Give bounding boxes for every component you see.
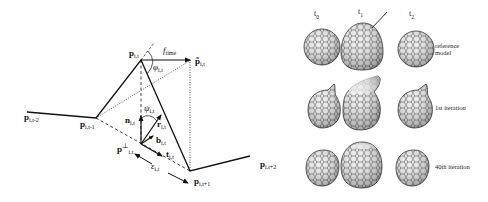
label-f-time: ftime <box>163 46 176 56</box>
label-p-next2: pi,t+2 <box>260 160 276 170</box>
mesh-iter40-t0 <box>306 150 339 186</box>
mesh-iter1-t1 <box>343 76 380 130</box>
phi-arc <box>147 51 153 74</box>
label-epsilon: εi,t <box>151 162 159 172</box>
row-label-1st-iteration: 1st iteration <box>435 104 466 111</box>
trajectory-line <box>27 60 250 171</box>
epsilon-arrow-right <box>168 173 188 183</box>
mesh-ref-t2 <box>398 31 434 67</box>
b-arrow <box>141 136 153 144</box>
mesh-grid <box>304 12 434 188</box>
label-p-curr: pi,t <box>129 49 139 59</box>
label-p-perp: p⊥i,t <box>117 143 133 155</box>
label-psi: ψi,t <box>144 104 154 114</box>
mesh-ref-t0 <box>304 29 340 65</box>
psi-arc <box>141 116 157 121</box>
label-p-next1: pi,t+1 <box>194 177 210 187</box>
label-p-prev2: pi,t-2 <box>24 113 39 123</box>
mesh-ref-t1 <box>341 12 387 70</box>
label-n: ni,t <box>125 116 135 126</box>
epsilon-arrow-left <box>135 154 152 164</box>
label-r: ri,t <box>157 120 166 130</box>
pointer-line <box>372 12 387 28</box>
column-header-t2: t2 <box>409 9 414 20</box>
label-p-tilde: p̃i,t <box>195 57 205 67</box>
trajectory-diagram <box>27 43 250 183</box>
label-p-prev1: pi,t-1 <box>80 120 95 130</box>
column-header-t1: t1 <box>358 7 363 18</box>
label-t: ti,t <box>166 150 174 160</box>
mesh-iter1-t2 <box>398 84 432 128</box>
row-label-reference-model: referencemodel <box>435 42 459 56</box>
mesh-iter40-t1 <box>341 142 382 188</box>
diagram-canvas <box>0 0 488 202</box>
mesh-iter1-t0 <box>308 84 340 128</box>
label-b: bi,t <box>156 136 166 146</box>
label-phi: φi,t <box>153 63 163 73</box>
mesh-iter40-t2 <box>396 150 429 186</box>
column-header-t0: t0 <box>314 9 319 20</box>
row-label-40th-iteration: 40th iteration <box>435 163 470 170</box>
